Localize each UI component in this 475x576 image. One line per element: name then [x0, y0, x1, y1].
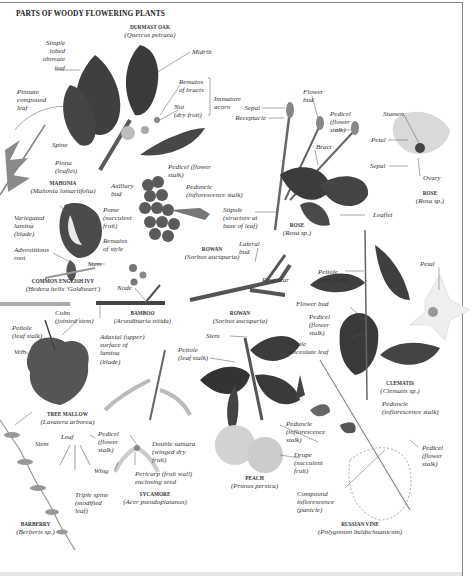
specimen-mahonia: MAHONIA (Mahonia lomariifolia) — [8, 180, 118, 196]
rose-illustration — [275, 102, 450, 230]
label-sepal-rose-bud: Sepal — [230, 104, 260, 112]
label-ring-scar: Ring scar — [262, 276, 289, 284]
specimen-latin: (Acer pseudoplatanus) — [110, 498, 200, 507]
specimen-rose-stem: ROSE (Rosa sp.) — [272, 222, 322, 238]
specimen-name: COMMON ENGLISH IVY — [32, 278, 94, 284]
specimen-rowan-berries: ROWAN (Sorbus aucuparia) — [182, 246, 242, 262]
label-adventitious-root: Adventitious root — [14, 246, 49, 262]
label-petal-clematis: Petal — [420, 260, 435, 268]
label-compound-inflorescence: Compound inflorescence (panicle) — [297, 490, 334, 515]
label-pedicel-rose: Pedicel (flower stalk) — [330, 110, 351, 135]
label-vein: Vein — [14, 348, 26, 356]
label-double-samara: Double samara (winged dry fruit) — [152, 440, 195, 465]
label-petiole-clematis: Petiole (leaf stalk) — [318, 268, 348, 284]
label-drupe: Drupe (succulent fruit) — [294, 451, 323, 476]
specimen-name: PEACH — [245, 475, 264, 481]
clematis-illustration — [310, 230, 470, 400]
peach-illustration — [200, 336, 300, 473]
specimen-rowan-twig: ROWAN (Sorbus aucuparia) — [195, 310, 285, 326]
label-petiole-mallow: Petiole (leaf stalk) — [12, 324, 42, 340]
label-simple-lobed-leaf: Simple lobed obovate leaf — [25, 39, 65, 72]
label-pinnate-compound-leaf: Pinnate compound leaf — [17, 88, 46, 113]
label-stamen: Stamen — [383, 110, 404, 118]
label-leaf-barberry: Leaf — [61, 433, 73, 441]
label-pinna: Pinna (leaflet) — [55, 159, 77, 175]
specimen-latin: (Prunus persica) — [222, 482, 287, 491]
label-pedicel-sycamore: Pedicel (flower stalk) — [98, 430, 119, 455]
specimen-latin: (Quercus petraea) — [95, 31, 205, 40]
label-stem-peach: Stem — [206, 332, 220, 340]
label-remains-of-style: Remains of style — [103, 237, 127, 253]
specimen-russian-vine: RUSSIAN VINE (Polygonum baldschuanicum) — [305, 521, 415, 537]
specimen-latin: (Sorbus aucuparia) — [182, 253, 242, 262]
label-variegated-lamina: Variegated lamina (blade) — [14, 214, 44, 239]
specimen-name: MAHONIA — [50, 180, 77, 186]
label-petal-rose: Petal — [371, 136, 386, 144]
specimen-name: TREE MALLOW — [47, 411, 88, 417]
ivy-illustration — [45, 203, 102, 282]
label-simple-lanceolate-leaf: Simple lanceolate leaf — [287, 340, 328, 356]
label-peduncle-rowan: Peduncle (inflorescence stalk) — [186, 183, 243, 199]
specimen-sycamore: SYCAMORE (Acer pseudoplatanus) — [110, 491, 200, 507]
specimen-name: BARBERRY — [21, 521, 51, 527]
specimen-name: SYCAMORE — [140, 491, 171, 497]
specimen-bamboo: BAMBOO (Arundinaria nitida) — [100, 310, 185, 326]
label-receptacle: Receptacle — [222, 114, 266, 122]
label-ovary: Ovary — [423, 174, 441, 182]
label-pedicel-clematis: Pedicel (flower stalk) — [309, 313, 330, 338]
label-stem-barberry: Stem — [35, 440, 49, 448]
label-pome: Pome (succulent fruit) — [103, 206, 132, 231]
specimen-latin: (Polygonum baldschuanicum) — [305, 528, 415, 537]
specimen-name: RUSSIAN VINE — [341, 521, 379, 527]
specimen-name: BAMBOO — [130, 310, 154, 316]
label-sepal-rose-flower: Sepal — [370, 162, 386, 170]
specimen-latin: (Arundinaria nitida) — [100, 317, 185, 326]
label-triple-spine: Triple spine (modified leaf) — [75, 491, 108, 516]
specimen-latin: (Lavatera arborea) — [25, 418, 110, 427]
label-stem-ivy: Stem — [88, 260, 102, 268]
specimen-rose-flower: ROSE (Rosa sp.) — [405, 190, 455, 206]
specimen-latin: (Hedera helix 'Goldheart') — [8, 285, 118, 294]
label-bract: Bract — [316, 143, 332, 151]
specimen-common-english-ivy: COMMON ENGLISH IVY (Hedera helix 'Goldhe… — [8, 278, 118, 294]
specimen-clematis: CLEMATIS (Clematis sp.) — [365, 380, 435, 396]
specimen-peach: PEACH (Prunus persica) — [222, 475, 287, 491]
specimen-name: DURMAST OAK — [130, 24, 170, 30]
specimen-latin: (Mahonia lomariifolia) — [8, 187, 118, 196]
label-peduncle-peach: Peduncle (inflorescence stalk) — [286, 420, 325, 445]
label-node: Node — [117, 284, 132, 292]
specimen-name: ROSE — [290, 222, 304, 228]
label-spine: Spine — [52, 141, 68, 149]
specimen-latin: (Sorbus aucuparia) — [195, 317, 285, 326]
specimen-durmast-oak: DURMAST OAK (Quercus petraea) — [95, 24, 205, 40]
botanical-page: PARTS OF WOODY FLOWERING PLANTS — [0, 0, 475, 576]
specimen-name: ROSE — [423, 190, 437, 196]
label-leaflet: Leaflet — [373, 211, 392, 219]
specimen-latin: (Clematis sp.) — [365, 387, 435, 396]
label-lateral-bud: Lateral bud — [239, 240, 260, 256]
label-culm: Culm (jointed stem) — [55, 309, 94, 325]
specimen-tree-mallow: TREE MALLOW (Lavatera arborea) — [25, 411, 110, 427]
label-midrib: Midrib — [192, 48, 211, 56]
label-pedicel-rowan: Pedicel (flower stalk) — [168, 163, 211, 179]
label-pedicel-vine: Pedicel (flower stalk) — [422, 444, 443, 469]
label-peduncle-vine: Peduncle (inflorescence stalk) — [382, 400, 439, 416]
specimen-name: ROWAN — [202, 246, 222, 252]
label-flower-bud-rose: Flower bud — [303, 88, 323, 104]
specimen-name: CLEMATIS — [386, 380, 414, 386]
label-stipule: Stipule (structure at base of leaf) — [223, 206, 258, 231]
label-remains-of-bracts: Remains of bracts — [179, 78, 204, 94]
specimen-latin: (Berberis sp.) — [8, 528, 63, 537]
label-nut: Nut (dry fruit) — [174, 103, 202, 119]
label-adaxial-surface: Adaxial (upper) surface of lamina (blade… — [100, 333, 145, 366]
label-petiole-peach: Petiole (leaf stalk) — [178, 346, 208, 362]
label-pericarp: Pericarp (fruit wall) enclosing seed — [135, 470, 192, 486]
specimen-latin: (Rosa sp.) — [272, 229, 322, 238]
specimen-latin: (Rosa sp.) — [405, 197, 455, 206]
label-flower-bud-clematis: Flower bud — [296, 300, 328, 308]
label-axillary-bud: Axillary bud — [111, 182, 134, 198]
label-wing: Wing — [94, 467, 108, 475]
specimen-name: ROWAN — [230, 310, 250, 316]
specimen-barberry: BARBERRY (Berberis sp.) — [8, 521, 63, 537]
